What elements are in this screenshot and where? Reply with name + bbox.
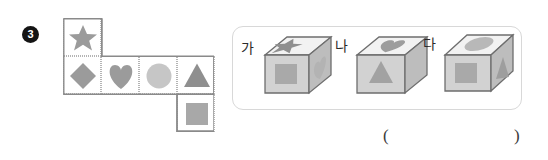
choice-label-na: 나	[335, 39, 348, 53]
diamond-icon	[64, 57, 102, 95]
choice-cube-ga[interactable]	[261, 33, 337, 103]
choices-panel: 가 나	[232, 26, 522, 110]
net-cell-square[interactable]	[177, 94, 215, 132]
cube-da-front-square-icon	[455, 63, 477, 83]
choice-label-ga: 가	[241, 41, 254, 55]
net-cell-circle[interactable]	[139, 56, 177, 94]
choice-label-da: 다	[423, 37, 436, 51]
circle-icon	[140, 57, 178, 95]
heart-icon	[102, 57, 140, 95]
cube-net	[63, 18, 214, 132]
net-cell-triangle[interactable]	[177, 56, 215, 94]
worksheet-canvas: 3	[0, 0, 548, 160]
square-icon	[178, 95, 216, 133]
choice-cube-na[interactable]	[353, 31, 433, 103]
question-number-badge: 3	[22, 26, 39, 43]
net-cell-star[interactable]	[63, 18, 101, 56]
net-cell-diamond[interactable]	[63, 56, 101, 94]
cube-ga-front-square-icon	[275, 64, 297, 84]
triangle-icon	[178, 57, 216, 95]
net-cell-heart[interactable]	[101, 56, 139, 94]
choice-cube-da[interactable]	[441, 29, 519, 101]
star-icon	[64, 19, 102, 57]
answer-open-paren: (	[383, 126, 389, 146]
answer-close-paren: )	[514, 126, 520, 146]
